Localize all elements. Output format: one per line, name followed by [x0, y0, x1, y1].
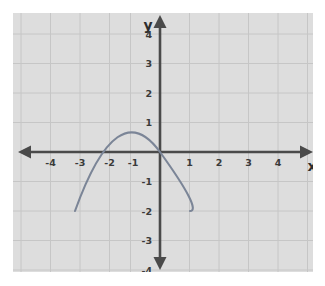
x-tick-label: 3: [245, 157, 252, 168]
x-tick-label: -4: [45, 157, 56, 168]
y-axis: [154, 15, 167, 270]
y-tick-label: -4: [141, 265, 152, 273]
x-tick-label: 2: [216, 157, 223, 168]
parabola-curve: [75, 132, 193, 211]
y-axis-label: y: [143, 17, 152, 33]
x-tick-label: 4: [275, 157, 282, 168]
arrow-up-icon: [154, 15, 167, 28]
y-tick-label: 1: [145, 117, 152, 128]
vertical-gridlines: [21, 13, 308, 272]
x-tick-label: -2: [104, 157, 115, 168]
x-tick-label: 1: [186, 157, 193, 168]
y-tick-label: -1: [141, 176, 152, 187]
arrow-right-icon: [300, 146, 313, 159]
coordinate-plane: -4 -3 -2 -1 1 2 3 4 4 3 2 1 -1 -2 -3 -4 …: [13, 13, 313, 272]
x-tick-label: -3: [75, 157, 86, 168]
y-tick-labels: 4 3 2 1 -1 -2 -3 -4: [141, 29, 152, 273]
x-tick-labels: -4 -3 -2 -1 1 2 3 4: [45, 157, 281, 168]
y-tick-label: 2: [145, 88, 152, 99]
y-tick-label: -2: [141, 206, 152, 217]
y-tick-label: 3: [145, 58, 152, 69]
x-axis-label: x: [307, 158, 313, 174]
x-tick-label: -1: [128, 157, 139, 168]
arrow-left-icon: [18, 146, 31, 159]
arrow-down-icon: [154, 257, 167, 270]
x-axis: [18, 146, 313, 159]
graph-panel: -4 -3 -2 -1 1 2 3 4 4 3 2 1 -1 -2 -3 -4 …: [13, 13, 313, 272]
cutoff-caption: [0, 0, 325, 1]
y-tick-label: -3: [141, 235, 152, 246]
